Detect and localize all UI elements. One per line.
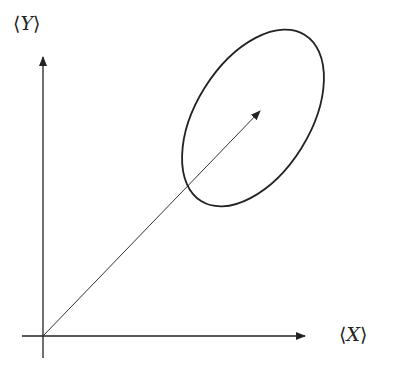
diagram-canvas bbox=[0, 0, 395, 366]
mean-vector-arrow bbox=[43, 111, 260, 336]
y-axis-label: ⟨Y⟩ bbox=[13, 12, 40, 34]
x-axis-label: ⟨X⟩ bbox=[339, 323, 367, 345]
